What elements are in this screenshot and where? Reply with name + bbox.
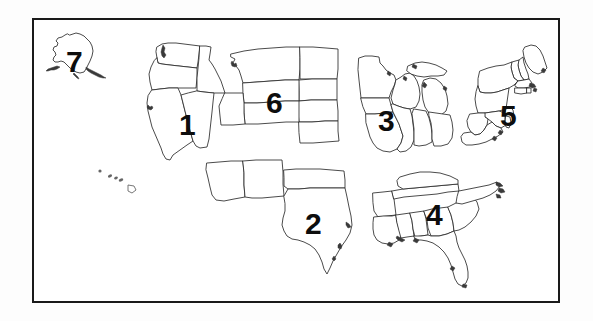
map-page: 7 1 6 3 5 2 4 <box>0 0 593 321</box>
state-kansas <box>299 121 339 143</box>
state-montana <box>231 47 300 83</box>
state-michigan-upper-peninsula <box>407 62 447 77</box>
state-idaho <box>197 46 225 93</box>
region-label-3: 3 <box>378 106 395 136</box>
state-michigan <box>422 78 448 116</box>
state-rhode-island <box>527 88 531 93</box>
state-new-mexico <box>243 160 284 198</box>
region-label-1: 1 <box>179 110 196 140</box>
state-utah <box>219 93 245 125</box>
state-ohio <box>429 112 453 146</box>
state-minnesota <box>358 56 396 98</box>
state-florida <box>413 231 468 288</box>
state-north-carolina <box>456 182 505 204</box>
region-label-4: 4 <box>426 200 443 230</box>
state-nebraska <box>298 100 338 122</box>
state-arizona <box>206 161 245 201</box>
region-label-2: 2 <box>305 209 322 239</box>
state-connecticut <box>515 88 527 94</box>
hawaii-islands <box>98 169 136 193</box>
state-south-dakota <box>299 79 337 101</box>
region-label-6: 6 <box>266 88 283 118</box>
us-map-svg <box>0 0 593 321</box>
state-north-dakota <box>300 47 338 79</box>
region-label-5: 5 <box>500 101 517 131</box>
region-label-7: 7 <box>66 47 83 77</box>
state-oklahoma <box>284 169 345 189</box>
